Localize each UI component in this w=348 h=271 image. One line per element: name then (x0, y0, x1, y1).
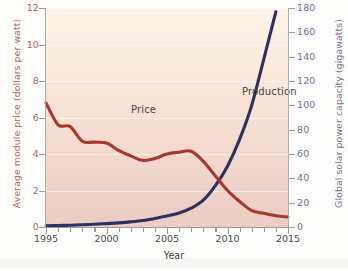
right-tick (289, 105, 295, 106)
right-tick (289, 203, 295, 204)
solar-price-production-chart: Price Production 12 10 8 6 4 2 0 180 160… (0, 0, 348, 271)
left-tick (39, 81, 45, 82)
x-tick-minor (240, 228, 241, 232)
series-canvas (46, 8, 288, 227)
production-line (46, 12, 276, 226)
left-tick-label: 4 (23, 148, 39, 159)
x-tick-minor (191, 228, 192, 232)
x-tick-minor (155, 228, 156, 232)
x-tick-minor (203, 228, 204, 232)
x-tick-minor (94, 228, 95, 232)
price-series-label: Price (131, 104, 156, 115)
right-tick-label: 160 (297, 26, 321, 37)
right-tick-label: 60 (297, 148, 321, 159)
x-tick-minor (58, 228, 59, 232)
right-tick-label: 80 (297, 124, 321, 135)
left-tick-label: 0 (23, 221, 39, 232)
x-tick-minor (70, 228, 71, 232)
left-tick-label: 2 (23, 185, 39, 196)
right-tick (289, 130, 295, 131)
x-tick-minor (264, 228, 265, 232)
left-tick-label: 12 (23, 2, 39, 13)
right-tick (289, 57, 295, 58)
right-axis-title: Global solar power capacity (gigawatts) (333, 2, 344, 226)
price-line (46, 103, 288, 217)
right-tick-label: 0 (297, 221, 321, 232)
x-tick-minor (82, 228, 83, 232)
left-tick (39, 154, 45, 155)
x-tick-label: 2005 (147, 233, 187, 244)
x-tick-label: 1995 (26, 233, 66, 244)
left-tick-label: 8 (23, 75, 39, 86)
plot-area: Price Production (46, 8, 288, 227)
right-tick (289, 81, 295, 82)
right-tick (289, 32, 295, 33)
left-tick (39, 191, 45, 192)
right-tick (289, 8, 295, 9)
x-tick-minor (143, 228, 144, 232)
right-tick (289, 178, 295, 179)
right-tick-label: 20 (297, 197, 321, 208)
x-tick-label: 2010 (208, 233, 248, 244)
right-tick (289, 227, 295, 228)
x-tick-minor (276, 228, 277, 232)
x-tick-minor (215, 228, 216, 232)
right-axis-line (288, 8, 289, 228)
left-axis-line (45, 8, 46, 228)
left-tick (39, 118, 45, 119)
right-tick-label: 140 (297, 51, 321, 62)
left-axis-title: Average module price (dollars per watt) (11, 2, 22, 226)
left-tick-label: 10 (23, 39, 39, 50)
right-tick-label: 180 (297, 2, 321, 13)
right-tick-label: 120 (297, 75, 321, 86)
left-tick (39, 8, 45, 9)
x-tick-minor (252, 228, 253, 232)
right-tick-label: 40 (297, 172, 321, 183)
x-tick-label: 2000 (87, 233, 127, 244)
right-tick (289, 154, 295, 155)
x-tick-minor (131, 228, 132, 232)
right-tick-label: 100 (297, 99, 321, 110)
x-tick-minor (179, 228, 180, 232)
left-tick-label: 6 (23, 112, 39, 123)
x-tick-label: 2015 (268, 233, 308, 244)
scan-artifact (0, 258, 348, 268)
x-tick-minor (119, 228, 120, 232)
left-tick (39, 45, 45, 46)
left-tick (39, 227, 45, 228)
